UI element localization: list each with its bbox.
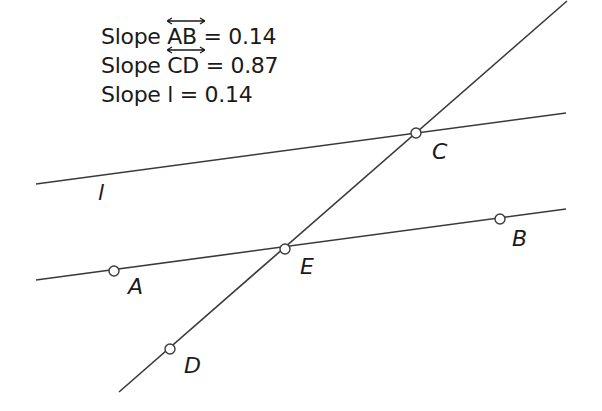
- line-l: [36, 113, 566, 184]
- slope-cd-equation: Slope CD = 0.87: [101, 53, 278, 79]
- line-cd-notation: CD: [167, 53, 199, 79]
- slope-l-value: 0.14: [205, 82, 253, 107]
- point-label-d: D: [184, 355, 201, 377]
- double-arrow-icon: [166, 17, 206, 25]
- slope-l-prefix: Slope: [101, 82, 167, 107]
- equals-sign: =: [173, 82, 205, 107]
- slope-cd-value: 0.87: [230, 53, 278, 78]
- point-c: [411, 128, 421, 138]
- point-b: [495, 214, 505, 224]
- equals-sign: =: [199, 53, 231, 78]
- point-label-e: E: [300, 256, 314, 278]
- point-label-b: B: [512, 228, 527, 250]
- slope-ab-prefix: Slope: [101, 24, 167, 49]
- double-arrow-icon: [166, 46, 206, 54]
- point-e: [280, 244, 290, 254]
- line-label-l: l: [98, 182, 104, 204]
- geometry-canvas: [0, 0, 602, 411]
- slope-ab-value: 0.14: [228, 24, 276, 49]
- slope-cd-prefix: Slope: [101, 53, 167, 78]
- point-label-a: A: [128, 276, 143, 298]
- line-cd-name: CD: [167, 53, 199, 78]
- slope-l-equation: Slope l = 0.14: [101, 82, 252, 108]
- point-a: [109, 266, 119, 276]
- point-d: [165, 344, 175, 354]
- point-label-c: C: [432, 141, 447, 163]
